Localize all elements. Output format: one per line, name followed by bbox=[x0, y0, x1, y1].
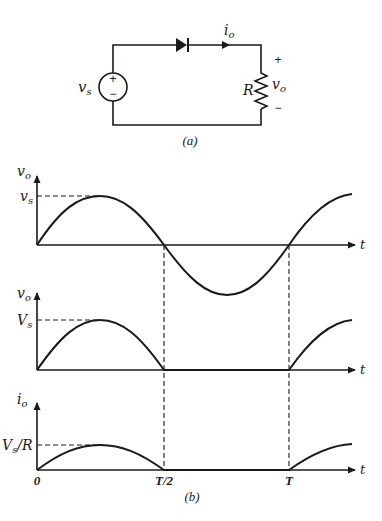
caption-b: (b) bbox=[184, 489, 199, 504]
curve-output-current bbox=[37, 444, 352, 470]
wire-top-right bbox=[188, 45, 261, 71]
source-minus: − bbox=[109, 87, 116, 101]
peak-label-1: vs bbox=[20, 188, 33, 206]
wire-right-bottom bbox=[113, 101, 261, 125]
waveform-panel: t vo vs t vo Vs t io Vs/R 0 T/2 bbox=[2, 163, 366, 504]
resistor-label: R bbox=[242, 82, 254, 98]
current-arrow-icon bbox=[222, 41, 230, 49]
y-label-1: vo bbox=[17, 163, 31, 181]
y-label-2: vo bbox=[17, 285, 31, 303]
plot-source-voltage: t vo vs bbox=[17, 163, 366, 295]
t-label-3: t bbox=[360, 462, 366, 477]
source-plus: + bbox=[109, 72, 116, 86]
plot-output-current: t io Vs/R bbox=[2, 391, 366, 477]
curve-rectified-voltage bbox=[37, 320, 352, 370]
output-minus: − bbox=[274, 101, 281, 115]
wire-top-left bbox=[113, 45, 176, 73]
diode-icon bbox=[176, 38, 188, 52]
caption-a: (a) bbox=[182, 133, 197, 148]
tick-0: 0 bbox=[34, 473, 41, 488]
output-label: vo bbox=[272, 76, 286, 94]
plot-output-voltage: t vo Vs bbox=[17, 285, 366, 377]
t-label-2: t bbox=[360, 362, 366, 377]
source-label: vs bbox=[78, 78, 92, 97]
t-label-1: t bbox=[360, 237, 366, 252]
resistor-icon bbox=[255, 71, 267, 109]
tick-half-period: T/2 bbox=[155, 473, 174, 488]
tick-period: T bbox=[285, 473, 294, 488]
y-label-3: io bbox=[17, 391, 28, 409]
current-label: io bbox=[224, 22, 235, 40]
peak-label-3: Vs/R bbox=[2, 437, 33, 455]
peak-label-2: Vs bbox=[17, 312, 32, 330]
circuit-diagram: + − vs io R + vo − (a) bbox=[78, 22, 286, 148]
output-plus: + bbox=[274, 53, 281, 67]
rectifier-figure: + − vs io R + vo − (a) t vo vs bbox=[0, 0, 382, 521]
